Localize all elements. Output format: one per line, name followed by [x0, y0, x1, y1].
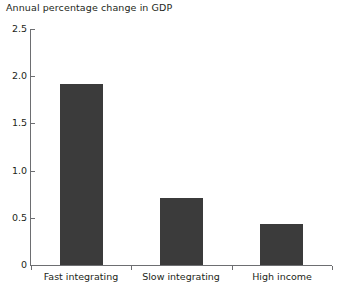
y-tick-label-wrap: 1.0 — [0, 166, 27, 176]
bar — [60, 84, 103, 265]
y-tick-label: 1.5 — [12, 118, 27, 128]
x-axis-line — [31, 265, 332, 266]
y-tick-label-wrap: 1.5 — [0, 118, 27, 128]
y-tick-label: 0 — [21, 260, 27, 270]
y-axis-line — [30, 29, 31, 266]
x-tick-mark — [31, 266, 32, 270]
x-category-label: Fast integrating — [31, 271, 131, 283]
chart-title: Annual percentage change in GDP — [6, 2, 172, 14]
y-tick-label: 1.0 — [12, 166, 27, 176]
x-tick-mark — [131, 266, 132, 270]
bar — [260, 224, 303, 265]
bar-chart-figure: Annual percentage change in GDP 00.51.01… — [0, 0, 346, 293]
y-tick-mark — [31, 171, 35, 172]
y-tick-mark — [31, 29, 35, 30]
x-category-label: High income — [232, 271, 332, 283]
y-tick-label-wrap: 2.5 — [0, 24, 27, 34]
x-tick-mark — [332, 266, 333, 270]
x-category-label: Slow integrating — [131, 271, 231, 283]
y-tick-label: 2.5 — [12, 24, 27, 34]
y-tick-label-wrap: 2.0 — [0, 71, 27, 81]
y-tick-mark — [31, 76, 35, 77]
x-tick-mark — [232, 266, 233, 270]
y-tick-label-wrap: 0 — [0, 260, 27, 270]
y-tick-mark — [31, 218, 35, 219]
y-tick-label: 2.0 — [12, 71, 27, 81]
y-tick-label: 0.5 — [12, 213, 27, 223]
bar — [160, 198, 203, 265]
y-tick-mark — [31, 123, 35, 124]
y-tick-label-wrap: 0.5 — [0, 213, 27, 223]
